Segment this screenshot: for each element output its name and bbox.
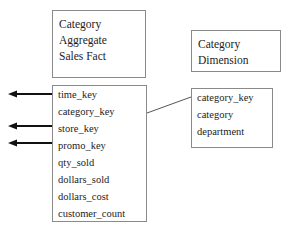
fact-field-qty-sold: qty_sold xyxy=(53,154,146,171)
join-line-category-key xyxy=(147,97,191,113)
fact-table-field-box: time_key category_key store_key promo_ke… xyxy=(52,85,147,222)
fact-table-title-box: Category Aggregate Sales Fact xyxy=(52,10,146,78)
fact-field-time-key: time_key xyxy=(53,86,146,103)
diagram-canvas: Category Aggregate Sales Fact time_key c… xyxy=(0,0,295,241)
outbound-arrow-time-key xyxy=(8,91,52,98)
fact-field-promo-key: promo_key xyxy=(53,137,146,154)
fact-field-store-key: store_key xyxy=(53,120,146,137)
dimension-title-line-1: Category xyxy=(198,36,280,52)
fact-field-dollars-cost: dollars_cost xyxy=(53,188,146,205)
dimension-table-title-box: Category Dimension xyxy=(191,30,281,72)
fact-title-line-3: Sales Fact xyxy=(59,48,145,64)
fact-field-dollars-sold: dollars_sold xyxy=(53,171,146,188)
dimension-field-department: department xyxy=(192,123,272,140)
fact-title-line-1: Category xyxy=(59,16,145,32)
fact-title-line-2: Aggregate xyxy=(59,32,145,48)
fact-field-category-key: category_key xyxy=(53,103,146,120)
outbound-arrow-store-key xyxy=(8,123,52,130)
dimension-field-category: category xyxy=(192,106,272,123)
dimension-title-line-2: Dimension xyxy=(198,52,280,68)
fact-field-customer-count: customer_count xyxy=(53,205,146,222)
outbound-arrow-promo-key xyxy=(8,140,52,147)
dimension-table-field-box: category_key category department xyxy=(191,88,273,148)
dimension-field-category-key: category_key xyxy=(192,89,272,106)
